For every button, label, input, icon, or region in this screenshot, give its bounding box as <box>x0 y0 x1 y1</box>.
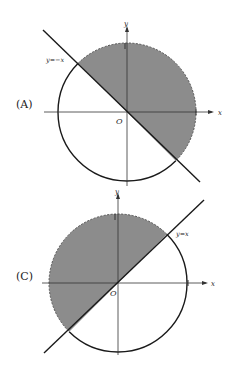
x-arrow-c <box>202 281 208 285</box>
figure-label-c: (C) <box>16 270 33 283</box>
axis-y-label-a: y <box>123 20 129 28</box>
axis-x-label-c: x <box>211 280 215 288</box>
figure-c: (C) y=x x y O <box>16 188 215 355</box>
diagram-canvas: (A) y=−x x y O (C) y=x x y O <box>0 0 233 379</box>
figure-a: (A) y=−x x y O <box>16 20 222 186</box>
origin-label-c: O <box>110 289 117 298</box>
shaded-region-c <box>49 214 167 332</box>
axis-y-label-c: y <box>114 188 120 196</box>
line-label-c: y=x <box>175 230 189 238</box>
figure-label-a: (A) <box>16 98 33 111</box>
shaded-region-a <box>78 43 196 161</box>
line-label-a: y=−x <box>45 56 65 64</box>
origin-label-a: O <box>116 117 123 126</box>
axis-x-label-a: x <box>218 109 222 117</box>
x-arrow-a <box>208 110 214 114</box>
